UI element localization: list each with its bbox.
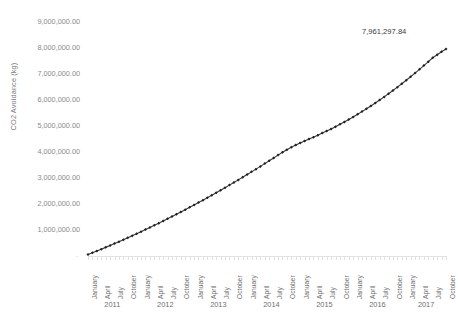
x-axis-tickmark (97, 256, 98, 260)
x-axis-tickmark (353, 256, 354, 260)
data-point-marker (100, 248, 103, 251)
x-axis-tickmark (362, 256, 363, 260)
x-axis-tickmark (168, 256, 169, 260)
x-axis-month-label: July (382, 287, 389, 299)
x-axis-tickmark (397, 256, 398, 260)
x-axis-month-label: October (449, 275, 456, 299)
x-axis-tickmark (300, 256, 301, 260)
x-axis-tickmark (291, 256, 292, 260)
x-axis-tickmark (340, 256, 341, 260)
x-axis-month-label: July (223, 287, 230, 299)
x-axis-tickmark (384, 256, 385, 260)
y-axis-tick-label: 9,000,000.00 (8, 18, 80, 26)
data-point-marker (91, 251, 94, 254)
x-axis-tickmark (106, 256, 107, 260)
data-point-label: 7,961,297.84 (362, 27, 406, 36)
x-axis-month-label: October (289, 275, 296, 299)
x-axis-tickmark (278, 256, 279, 260)
x-axis-tickmark (393, 256, 394, 260)
x-axis-tickmark (92, 256, 93, 260)
x-axis-tickmark (115, 256, 116, 260)
x-axis-month-label: October (343, 275, 350, 299)
x-axis-month-label: July (435, 287, 442, 299)
line-series-svg (88, 22, 446, 256)
x-axis-tickmark (424, 256, 425, 260)
x-axis-tickmark (336, 256, 337, 260)
x-axis-tickmark (203, 256, 204, 260)
x-axis-month-label: April (369, 286, 376, 299)
x-axis-tickmark (181, 256, 182, 260)
x-axis-month-label: April (316, 286, 323, 299)
x-axis-tickmark (238, 256, 239, 260)
x-axis-tickmark (344, 256, 345, 260)
x-axis-tickmark (358, 256, 359, 260)
x-axis-month-label: July (329, 287, 336, 299)
x-axis-tickmark (88, 256, 89, 260)
x-axis-month-label: April (210, 286, 217, 299)
x-axis-month-label: October (396, 275, 403, 299)
x-axis-tickmark (305, 256, 306, 260)
x-axis-month-label: January (409, 275, 416, 299)
x-axis-tickmark (185, 256, 186, 260)
x-axis-year-label: 2013 (198, 300, 238, 309)
x-axis-tickmark (402, 256, 403, 260)
x-axis-tickmark (442, 256, 443, 260)
x-axis-tickmark (375, 256, 376, 260)
x-axis-tickmark (212, 256, 213, 260)
x-axis-tickmark (313, 256, 314, 260)
x-axis-month-label: January (303, 275, 310, 299)
x-axis-tickmark (190, 256, 191, 260)
x-axis-tickmark (150, 256, 151, 260)
x-axis-month-label: April (422, 286, 429, 299)
x-axis-tickmark (349, 256, 350, 260)
x-axis-tickmark (132, 256, 133, 260)
x-axis-tickmark (265, 256, 266, 260)
x-axis-tickmark (260, 256, 261, 260)
x-axis-tickmark (331, 256, 332, 260)
x-axis-month-label: January (250, 275, 257, 299)
x-axis-month-label: January (91, 275, 98, 299)
x-axis-tickmark (287, 256, 288, 260)
x-axis-year-label: 2017 (406, 300, 446, 309)
x-axis-tickmark (159, 256, 160, 260)
x-axis-tickmark (141, 256, 142, 260)
y-axis-tick-label: 3,000,000.00 (8, 174, 80, 182)
x-axis-tickmark (327, 256, 328, 260)
x-axis-tickmark (269, 256, 270, 260)
x-axis-tickmark (428, 256, 429, 260)
x-axis-month-label: April (263, 286, 270, 299)
chart-container: CO2 Avoidance (kg) 9,000,000.008,000,000… (0, 0, 458, 326)
x-axis-tickmark (216, 256, 217, 260)
y-axis-tick-label: 7,000,000.00 (8, 70, 80, 78)
x-axis-tickmark (194, 256, 195, 260)
x-axis-month-label: July (117, 287, 124, 299)
y-axis-tick-label: - (6, 252, 80, 260)
x-axis-tickmark (446, 256, 447, 260)
x-axis-month-label: October (183, 275, 190, 299)
x-axis-tickmark (243, 256, 244, 260)
x-axis-tickmark (110, 256, 111, 260)
x-axis-tickmark (406, 256, 407, 260)
x-axis-tickmark (221, 256, 222, 260)
y-axis-tick-label: 8,000,000.00 (8, 44, 80, 52)
x-axis-tickmark (198, 256, 199, 260)
x-axis-tickmark (433, 256, 434, 260)
x-axis-tickmark (225, 256, 226, 260)
x-axis-tickmark (309, 256, 310, 260)
x-axis-tickmark (145, 256, 146, 260)
x-axis-year-label: 2012 (145, 300, 185, 309)
x-axis-tickmark (322, 256, 323, 260)
x-axis-tickmark (119, 256, 120, 260)
data-point-marker (95, 249, 98, 252)
y-axis-tick-label: 4,000,000.00 (8, 148, 80, 156)
x-axis-year-label: 2011 (92, 300, 132, 309)
x-axis-tickmark (101, 256, 102, 260)
x-axis-tickmark (437, 256, 438, 260)
x-axis-tickmark (274, 256, 275, 260)
x-axis-month-label: July (276, 287, 283, 299)
x-axis-tickmark (256, 256, 257, 260)
x-axis-tickmark (366, 256, 367, 260)
x-axis-tickmark (411, 256, 412, 260)
x-axis-tickmark (176, 256, 177, 260)
series-line-co2-avoidance (88, 49, 446, 254)
